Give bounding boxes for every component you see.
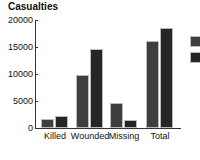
legend-swatch-series-1 [190,36,200,47]
legend-swatch-series-2 [190,52,200,63]
y-tick-label: 0 [0,123,33,133]
bar-missing-series-1 [110,103,123,128]
bar-total-series-1 [146,41,159,128]
bar-killed-series-1 [41,119,54,128]
y-tick-label: 15000 [0,42,33,52]
y-tick-mark [35,74,38,75]
y-tick-mark [35,47,38,48]
bar-wounded-series-2 [90,49,103,128]
bar-killed-series-2 [55,116,68,128]
y-tick-mark [35,20,38,21]
chart-title: Casualties [8,1,58,12]
y-tick-label: 5000 [0,96,33,106]
bar-missing-series-2 [124,120,137,128]
x-axis [35,128,181,129]
bar-wounded-series-1 [76,75,89,128]
y-tick-label: 20000 [0,15,33,25]
y-tick-mark [35,101,38,102]
y-tick-label: 10000 [0,69,33,79]
bar-total-series-2 [160,28,173,128]
x-tick-label: Total [138,131,182,141]
